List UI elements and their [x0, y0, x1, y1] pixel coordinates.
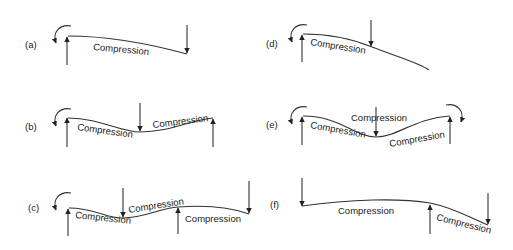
panel-label-f: (f) [270, 199, 279, 210]
moment-arrow-icon [55, 109, 71, 126]
panel-label-a: (a) [25, 39, 37, 50]
panel-c: (c) Compression Compression Compression [28, 181, 249, 236]
moment-arrow-icon [446, 105, 462, 122]
compression-label: Compression [152, 112, 209, 130]
moment-arrow-icon [291, 107, 307, 124]
panel-label-b: (b) [25, 121, 37, 132]
moment-arrow-icon [55, 26, 71, 43]
compression-label: Compression [351, 112, 407, 123]
panel-f: (f) Compression Compression [270, 178, 492, 235]
panel-a: (a) Compression [25, 25, 187, 65]
moment-arrow-icon [291, 25, 307, 42]
panel-label-e: (e) [266, 119, 278, 130]
compression-label: Compression [185, 213, 241, 224]
beam-diagrams: (a) Compression (b) Compression Compress… [0, 0, 513, 250]
panel-b: (b) Compression Compression [25, 103, 213, 147]
compression-label: Compression [77, 121, 134, 140]
panel-label-d: (d) [266, 38, 278, 49]
panel-e: (e) Compression Compression Compression [266, 105, 462, 149]
moment-arrow-icon [55, 193, 71, 210]
panel-label-c: (c) [28, 202, 39, 213]
compression-label: Compression [338, 205, 394, 216]
compression-label: Compression [310, 36, 367, 56]
panel-d: (d) Compression [266, 20, 429, 70]
